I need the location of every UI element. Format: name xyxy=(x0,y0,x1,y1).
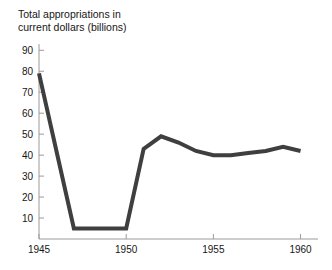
data-series-group xyxy=(39,73,301,228)
x-axis-tick-label: 1945 xyxy=(28,244,51,255)
x-axis-tick-label: 1955 xyxy=(202,244,225,255)
chart-figure: Total appropriations in current dollars … xyxy=(0,0,332,270)
y-axis-tick-label: 40 xyxy=(22,150,34,161)
y-axis-tick-label: 90 xyxy=(22,45,34,56)
y-axis-tick-label: 10 xyxy=(22,213,34,224)
y-axis-tick-label: 30 xyxy=(22,171,34,182)
x-axis-tick-label: 1950 xyxy=(115,244,138,255)
line-chart-plot: 102030405060708090 1945195019551960 xyxy=(0,0,332,270)
y-axis-tick-label: 20 xyxy=(22,192,34,203)
y-axis-tick-label: 60 xyxy=(22,108,34,119)
y-axis-tick-label: 80 xyxy=(22,66,34,77)
x-axis-ticks: 1945195019551960 xyxy=(28,234,312,255)
y-axis-ticks: 102030405060708090 xyxy=(22,45,44,224)
y-axis-tick-label: 50 xyxy=(22,129,34,140)
data-series-line xyxy=(39,73,301,228)
x-axis-tick-label: 1960 xyxy=(289,244,312,255)
y-axis-tick-label: 70 xyxy=(22,87,34,98)
